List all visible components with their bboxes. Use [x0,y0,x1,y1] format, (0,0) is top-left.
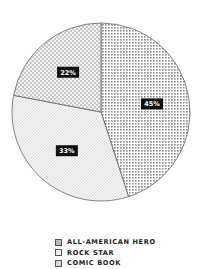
legend-swatch-lines-icon [55,249,62,256]
legend-swatch-dots-icon [55,239,62,246]
legend-item-rock-star: ROCK STAR [55,248,156,259]
legend-label: ALL-AMERICAN HERO [67,238,156,246]
legend-item-all-american-hero: ALL-AMERICAN HERO [55,237,156,248]
slice-value-label: 45% [144,100,160,108]
legend-label: ROCK STAR [67,249,114,257]
pie-slices [12,23,190,201]
legend-swatch-checker-icon [55,260,62,267]
pie-chart: 45%33%22% [0,0,209,230]
legend-label: COMIC BOOK [67,259,121,267]
legend: ALL-AMERICAN HERO ROCK STAR COMIC BOOK [55,237,156,269]
slice-value-label: 33% [59,147,75,155]
legend-item-comic-book: COMIC BOOK [55,258,156,269]
slice-value-label: 22% [60,69,76,77]
